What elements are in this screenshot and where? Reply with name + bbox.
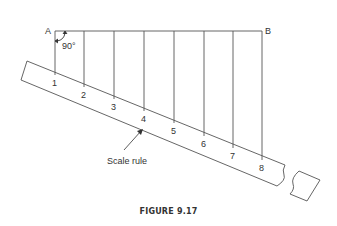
tick-label-7: 7 (230, 151, 235, 161)
angle-label: 90° (62, 41, 76, 51)
leader-arrow-icon (124, 129, 143, 150)
scale-rule (21, 61, 285, 186)
tick-label-6: 6 (201, 139, 206, 149)
tick-label-4: 4 (141, 114, 146, 124)
division-diagram: A B 90° 1 2 3 4 5 6 7 8 Scale rule (0, 0, 337, 226)
figure-caption: FIGURE 9.17 (0, 207, 337, 216)
tick-label-2: 2 (81, 90, 86, 100)
tick-label-3: 3 (111, 102, 116, 112)
tick-label-1: 1 (52, 78, 57, 88)
tick-label-8: 8 (259, 163, 264, 173)
projection-lines (55, 31, 262, 157)
point-a-label: A (45, 26, 51, 36)
point-b-label: B (265, 26, 271, 36)
scale-rule-label: Scale rule (107, 156, 147, 166)
scale-rule-fragment (290, 171, 320, 201)
tick-label-5: 5 (171, 126, 176, 136)
